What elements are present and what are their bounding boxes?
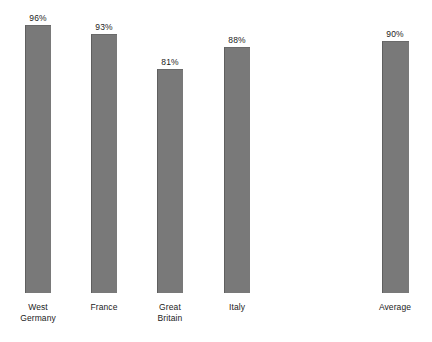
bar-france (91, 34, 117, 293)
bar-value-label: 81% (140, 57, 200, 67)
plot-area: 96% West Germany 93% France 81% Great Br… (0, 0, 432, 342)
bar-value-label: 96% (8, 13, 68, 23)
bar-value-label: 88% (207, 35, 267, 45)
category-label-great-britain: Great Britain (140, 302, 200, 324)
bar-chart: 96% West Germany 93% France 81% Great Br… (0, 0, 432, 342)
bar-italy (224, 47, 250, 293)
category-label-west-germany: West Germany (8, 302, 68, 324)
category-label-italy: Italy (207, 302, 267, 313)
bar-value-label: 90% (365, 29, 425, 39)
category-label-average: Average (365, 302, 425, 313)
category-label-france: France (74, 302, 134, 313)
bar-west-germany (25, 25, 51, 293)
bar-great-britain (157, 69, 183, 293)
bar-average (382, 41, 409, 293)
bar-value-label: 93% (74, 22, 134, 32)
